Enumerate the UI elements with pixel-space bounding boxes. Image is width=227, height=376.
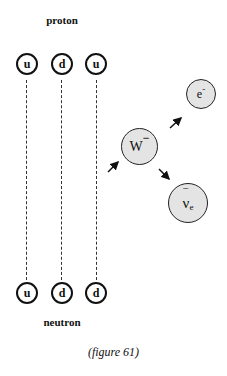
w-symbol: W [129, 139, 142, 155]
antineutrino-bar: ‾ [184, 186, 188, 202]
arrow-to-electron-icon [170, 118, 181, 128]
figure-caption: (figure 61) [0, 345, 227, 360]
electron-charge: - [202, 84, 205, 94]
electron: e - [186, 79, 216, 109]
w-charge: − [143, 131, 150, 146]
w-boson: W − [121, 128, 158, 165]
arrow-to-w-icon [108, 162, 118, 172]
antineutrino: ‾ ν e [168, 183, 208, 223]
antineutrino-subscript: e [189, 202, 193, 212]
arrow-to-antineutrino-icon [159, 169, 169, 179]
